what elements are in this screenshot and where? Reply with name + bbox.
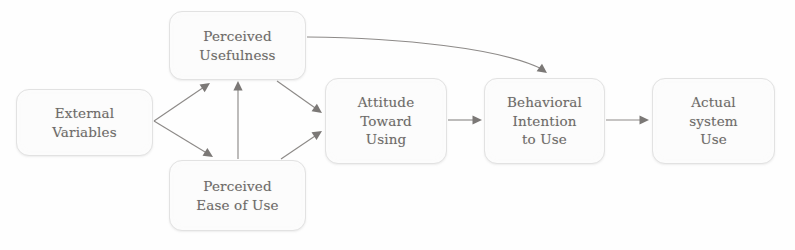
node-label-line: Toward xyxy=(360,112,412,130)
node-label-line: system xyxy=(689,112,738,130)
edge-ev-to-peou xyxy=(154,121,210,155)
node-actual-system-use[interactable]: Actual system Use xyxy=(652,78,775,164)
arrowhead-att-to-bi xyxy=(473,115,483,124)
node-label-line: Behavioral xyxy=(507,93,582,111)
diagram-canvas: External Variables Perceived Usefulness … xyxy=(0,0,795,250)
node-label-line: to Use xyxy=(522,130,567,148)
node-label-line: Using xyxy=(366,130,407,148)
arrowhead-pu-to-bi xyxy=(537,64,550,77)
arrowhead-peou-to-att xyxy=(312,127,325,140)
arrowhead-ev-to-pu xyxy=(200,79,213,92)
node-attitude-toward-using[interactable]: Attitude Toward Using xyxy=(325,78,447,164)
node-label-line: Ease of Use xyxy=(196,196,278,214)
node-label-line: Attitude xyxy=(358,93,415,111)
node-label-line: Perceived xyxy=(203,27,271,45)
node-behavioral-intention-to-use[interactable]: Behavioral Intention to Use xyxy=(484,78,605,164)
edge-peou-to-att xyxy=(281,134,318,159)
arrowhead-pu-to-att xyxy=(312,104,325,117)
edge-pu-to-bi xyxy=(307,37,542,69)
node-label-line: Use xyxy=(700,130,727,148)
node-perceived-ease-of-use[interactable]: Perceived Ease of Use xyxy=(169,160,306,231)
arrowhead-peou-to-pu xyxy=(233,81,242,91)
node-external-variables[interactable]: External Variables xyxy=(16,89,153,156)
node-label-line: Intention xyxy=(512,112,576,130)
arrowhead-bi-to-asu xyxy=(640,115,650,124)
node-perceived-usefulness[interactable]: Perceived Usefulness xyxy=(169,11,306,80)
edge-ev-to-pu xyxy=(154,85,207,121)
node-label-line: Usefulness xyxy=(199,46,275,64)
arrowhead-ev-to-peou xyxy=(203,148,216,161)
node-label-line: Perceived xyxy=(203,177,271,195)
node-label-line: Variables xyxy=(52,123,117,141)
node-label-line: Actual xyxy=(691,93,736,111)
edge-pu-to-att xyxy=(277,81,318,110)
node-label-line: External xyxy=(55,104,115,122)
